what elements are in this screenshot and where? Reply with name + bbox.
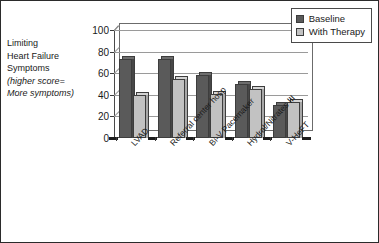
y-axis-tick-mark: [110, 73, 114, 74]
legend-label-with-therapy: With Therapy: [309, 26, 365, 37]
x-axis-tick-mark: [155, 137, 156, 141]
x-axis-tick-mark: [270, 137, 271, 141]
legend-item-with-therapy: With Therapy: [296, 25, 365, 38]
legend-swatch-with-therapy: [296, 28, 304, 36]
y-axis-tick-label: 20: [98, 111, 109, 122]
y-axis-title-line-5: More symptoms): [7, 87, 93, 100]
y-axis-tick-mark: [110, 116, 114, 117]
y-axis-title-line-3: Symptoms: [7, 62, 93, 75]
x-axis-tick-mark: [116, 137, 117, 141]
x-axis-tick-mark: [193, 137, 194, 141]
bars-layer: [115, 30, 308, 138]
bar-group: [119, 30, 150, 138]
y-axis-tick-mark: [110, 52, 114, 53]
y-axis-tick-mark: [110, 95, 114, 96]
y-axis-title-line-1: Limiting: [7, 37, 93, 50]
bar-group: [273, 30, 304, 138]
legend-label-baseline: Baseline: [309, 13, 345, 24]
bar-baseline: [119, 56, 132, 138]
bar-front-face: [158, 59, 171, 138]
y-axis-tick-mark: [110, 30, 114, 31]
y-axis-title-line-4: (higher score=: [7, 75, 93, 88]
legend-swatch-baseline: [296, 15, 304, 23]
y-axis-title: Limiting Heart Failure Symptoms (higher …: [7, 37, 93, 100]
bar-group: [196, 30, 227, 138]
bar-group: [158, 30, 189, 138]
y-axis-tick-label: 40: [98, 89, 109, 100]
y-axis-tick-label: 60: [98, 68, 109, 79]
bar-front-face: [119, 59, 132, 138]
y-axis-tick-label: 100: [92, 25, 109, 36]
plot-area: 020406080100: [114, 23, 313, 138]
y-axis-title-line-2: Heart Failure: [7, 50, 93, 63]
chart-legend: Baseline With Therapy: [291, 8, 372, 43]
bar-baseline: [158, 56, 171, 138]
x-axis-labels: LVADReferral center hospBi-V PacemakerHy…: [114, 137, 379, 237]
y-axis-tick-label: 80: [98, 46, 109, 57]
legend-item-baseline: Baseline: [296, 12, 365, 25]
chart-figure: Limiting Heart Failure Symptoms (higher …: [0, 0, 379, 243]
x-axis-tick-mark: [232, 137, 233, 141]
